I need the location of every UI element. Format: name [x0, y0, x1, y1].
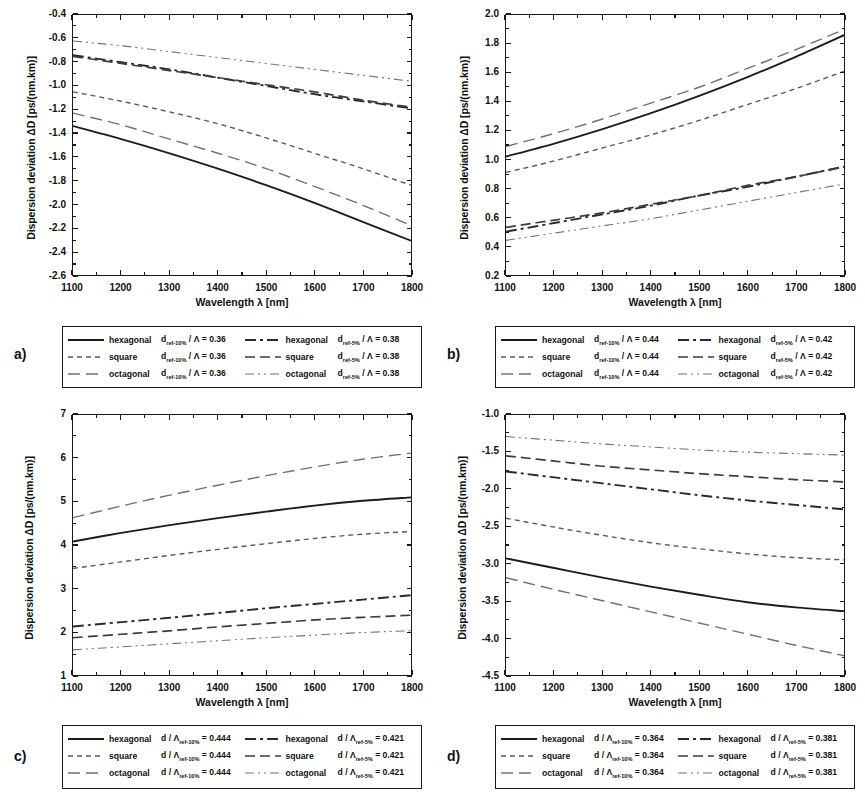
y-tick: [73, 275, 78, 276]
x-tick-minor: [96, 15, 97, 18]
x-tick-minor: [577, 415, 578, 418]
y-tick: [73, 37, 78, 38]
x-tick: [699, 15, 700, 20]
x-tick-minor: [96, 672, 97, 675]
x-tick-minor: [339, 415, 340, 418]
y-tick-minor: [842, 261, 845, 262]
y-tick-minor: [842, 232, 845, 233]
y-tick-minor: [842, 507, 845, 508]
legend-shape-label: square: [286, 751, 338, 761]
y-tick: [840, 563, 845, 564]
y-tick-label: -4.5: [465, 671, 499, 681]
x-tick-minor: [339, 15, 340, 18]
legend-expression: d / Λref-10% = 0.444: [161, 767, 231, 779]
x-tick: [217, 15, 218, 20]
x-tick-minor: [241, 672, 242, 675]
plot-area-a: Dispersion deviation ΔD [ps/(nm.km)] Wav…: [0, 0, 432, 310]
panel-label-c: c): [14, 748, 26, 764]
x-tick: [363, 670, 364, 675]
legend-expression: dref-10% / Λ = 0.36: [161, 351, 226, 363]
y-tick-label: -0.4: [32, 9, 66, 19]
x-tick-label: 1200: [534, 282, 574, 293]
x-tick-minor: [820, 672, 821, 675]
y-tick-minor: [73, 654, 76, 655]
x-tick: [504, 670, 505, 675]
x-tick: [602, 670, 603, 675]
legend-line-swatch: [245, 369, 281, 379]
y-tick-minor: [409, 435, 412, 436]
y-tick-minor: [506, 619, 509, 620]
legend-expression: d / Λref-10% = 0.364: [594, 767, 664, 779]
y-tick: [506, 563, 511, 564]
y-tick-minor: [409, 479, 412, 480]
x-tick-minor: [674, 15, 675, 18]
legend-line-swatch: [501, 369, 537, 379]
legend-line-swatch: [678, 369, 714, 379]
x-tick: [796, 670, 797, 675]
legend-expression: d / Λref-5% = 0.421: [338, 750, 405, 762]
legend-item: octagonald / Λref-10% = 0.364: [501, 764, 673, 781]
y-tick: [407, 275, 412, 276]
y-tick-minor: [409, 240, 412, 241]
x-tick-label: 1700: [776, 682, 816, 693]
series-line: [73, 595, 411, 626]
legend-line-swatch: [68, 335, 104, 345]
legend-item: hexagonald / Λref-5% = 0.421: [245, 730, 417, 747]
x-tick: [844, 270, 845, 275]
y-tick-minor: [409, 610, 412, 611]
y-tick-minor: [842, 174, 845, 175]
x-tick: [844, 670, 845, 675]
legend-line-swatch: [68, 369, 104, 379]
plot-area-c: Dispersion deviation ΔD [ps/(nm.km)] Wav…: [0, 400, 432, 710]
legend-expression: dref-5% / Λ = 0.38: [338, 368, 400, 380]
x-tick: [266, 15, 267, 20]
x-tick: [71, 415, 72, 420]
x-tick-minor: [529, 672, 530, 675]
legend-shape-label: octagonal: [719, 369, 771, 379]
y-tick-minor: [73, 479, 76, 480]
legend-shape-label: square: [719, 751, 771, 761]
y-tick-label: -0.8: [32, 57, 66, 67]
y-tick-minor: [506, 28, 509, 29]
y-tick: [73, 501, 78, 502]
series-line: [73, 56, 411, 107]
y-tick-minor: [506, 174, 509, 175]
x-axis-title-a: Wavelength λ [nm]: [72, 296, 412, 308]
legend-shape-label: octagonal: [109, 768, 161, 778]
x-tick-label: 1600: [728, 682, 768, 693]
x-tick-minor: [339, 672, 340, 675]
y-tick: [407, 632, 412, 633]
x-tick: [747, 15, 748, 20]
x-tick: [120, 670, 121, 675]
x-axis-title-b: Wavelength λ [nm]: [505, 296, 845, 308]
x-tick: [699, 415, 700, 420]
y-tick: [840, 275, 845, 276]
x-tick-minor: [674, 272, 675, 275]
x-tick-label: 1100: [485, 282, 525, 293]
y-tick-minor: [842, 582, 845, 583]
x-tick-minor: [387, 415, 388, 418]
x-tick: [266, 415, 267, 420]
x-tick: [504, 15, 505, 20]
x-tick: [169, 415, 170, 420]
x-tick: [504, 270, 505, 275]
legend-item: squared / Λref-5% = 0.381: [678, 747, 850, 764]
y-tick: [506, 101, 511, 102]
y-tick-label: -2.5: [465, 521, 499, 531]
x-tick: [553, 415, 554, 420]
x-tick-minor: [241, 415, 242, 418]
y-tick: [73, 457, 78, 458]
curve-group-d: [506, 415, 844, 675]
series-line: [506, 29, 844, 146]
legend-expression: dref-10% / Λ = 0.36: [161, 334, 226, 346]
y-tick-minor: [506, 544, 509, 545]
x-tick-label: 1400: [631, 282, 671, 293]
y-tick: [506, 72, 511, 73]
x-axis-title-c: Wavelength λ [nm]: [72, 696, 412, 708]
series-line: [506, 35, 844, 156]
legend-expression: d / Λref-10% = 0.444: [161, 733, 231, 745]
x-axis-title-d: Wavelength λ [nm]: [505, 696, 845, 708]
x-tick: [411, 270, 412, 275]
x-tick: [602, 270, 603, 275]
y-tick: [506, 638, 511, 639]
